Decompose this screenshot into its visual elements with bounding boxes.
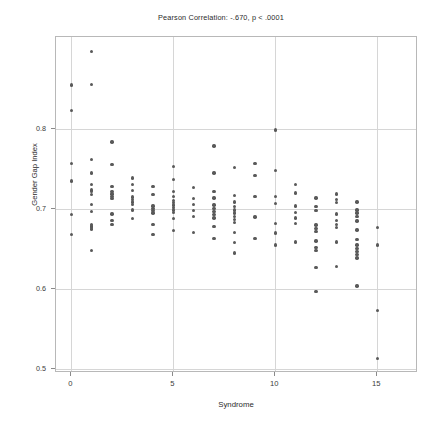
data-point — [355, 219, 358, 222]
data-point — [212, 144, 215, 147]
data-point — [70, 83, 73, 86]
data-point — [314, 230, 317, 233]
data-point — [172, 217, 175, 220]
data-point — [314, 205, 317, 208]
data-point — [70, 109, 73, 112]
data-point — [274, 128, 277, 131]
data-point — [110, 163, 113, 166]
data-point — [192, 209, 195, 212]
data-point — [151, 193, 154, 196]
data-point — [355, 200, 358, 203]
data-point — [212, 171, 215, 174]
y-tick-mark — [51, 288, 55, 289]
data-point — [151, 211, 154, 214]
data-point — [172, 178, 175, 181]
plot-area — [55, 36, 417, 372]
data-point — [274, 169, 277, 172]
y-tick-mark — [51, 208, 55, 209]
x-tick-mark — [172, 372, 173, 376]
data-point — [355, 284, 358, 287]
x-tick-label: 10 — [270, 379, 278, 388]
data-point — [131, 203, 134, 206]
x-tick-label: 0 — [68, 379, 72, 388]
data-point — [376, 243, 379, 246]
data-point — [274, 195, 277, 198]
data-point — [131, 189, 134, 192]
data-point — [90, 227, 93, 230]
data-point — [233, 200, 236, 203]
data-point — [70, 213, 73, 216]
data-point — [233, 221, 236, 224]
data-point — [90, 83, 93, 86]
data-point — [274, 243, 277, 246]
data-point — [192, 197, 195, 200]
data-point — [314, 196, 317, 199]
data-point — [274, 202, 277, 205]
data-point — [90, 171, 93, 174]
data-point — [110, 140, 113, 143]
data-point — [253, 195, 256, 198]
data-point — [355, 256, 358, 259]
data-point — [110, 223, 113, 226]
y-tick-mark — [51, 128, 55, 129]
data-point — [192, 203, 195, 206]
data-point — [274, 222, 277, 225]
data-point — [233, 194, 236, 197]
data-point — [90, 183, 93, 186]
data-point — [172, 195, 175, 198]
x-tick-mark — [274, 372, 275, 376]
data-point — [335, 212, 338, 215]
data-point — [335, 219, 338, 222]
data-point — [110, 197, 113, 200]
data-point — [314, 290, 317, 293]
data-point — [294, 216, 297, 219]
data-point — [151, 233, 154, 236]
data-point — [314, 209, 317, 212]
x-tick-label: 15 — [372, 379, 380, 388]
data-point — [294, 222, 297, 225]
data-point — [355, 228, 358, 231]
data-point — [131, 176, 134, 179]
data-point — [90, 50, 93, 53]
data-point — [294, 204, 297, 207]
data-point — [70, 179, 73, 182]
data-point — [110, 185, 113, 188]
data-point — [172, 211, 175, 214]
data-point — [212, 225, 215, 228]
y-tick-label: 0.7 — [0, 204, 46, 213]
data-point — [131, 183, 134, 186]
data-point — [376, 226, 379, 229]
data-point — [70, 233, 73, 236]
data-point — [335, 226, 338, 229]
chart-title: Pearson Correlation: -.670, p < .0001 — [0, 13, 442, 22]
data-points-layer — [56, 37, 416, 371]
x-tick-mark — [376, 372, 377, 376]
data-point — [376, 309, 379, 312]
data-point — [294, 183, 297, 186]
x-tick-label: 5 — [170, 379, 174, 388]
y-axis-label: Gender Gap Index — [30, 105, 39, 245]
x-axis-label: Syndrome — [55, 400, 417, 409]
data-point — [233, 251, 236, 254]
data-point — [90, 210, 93, 213]
data-point — [172, 165, 175, 168]
data-point — [335, 240, 338, 243]
data-point — [90, 249, 93, 252]
data-point — [70, 162, 73, 165]
y-tick-label: 0.8 — [0, 124, 46, 133]
data-point — [212, 190, 215, 193]
data-point — [376, 357, 379, 360]
data-point — [151, 185, 154, 188]
data-point — [212, 216, 215, 219]
data-point — [314, 239, 317, 242]
y-tick-mark — [51, 368, 55, 369]
data-point — [233, 241, 236, 244]
y-tick-label: 0.6 — [0, 284, 46, 293]
data-point — [253, 174, 256, 177]
data-point — [294, 240, 297, 243]
data-point — [192, 215, 195, 218]
data-point — [131, 217, 134, 220]
scatter-plot-figure: Pearson Correlation: -.670, p < .0001 0.… — [0, 0, 442, 426]
data-point — [314, 249, 317, 252]
data-point — [90, 203, 93, 206]
